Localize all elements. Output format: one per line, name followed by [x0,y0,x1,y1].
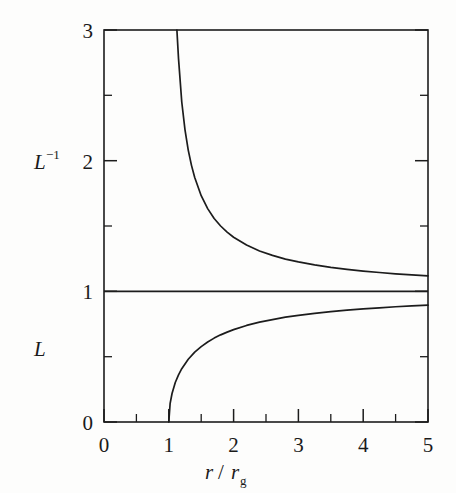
curve-L-main [169,305,428,422]
x-tick-label-3: 3 [293,433,304,457]
x-tick-label-4: 4 [358,433,369,457]
x-axis-title-numerator: r [205,460,214,484]
x-tick-label-2: 2 [228,433,239,457]
figure-container: 3 2 1 0 0 1 2 3 4 5 r / r g L −1 L [0,0,456,493]
x-tick-label-5: 5 [423,433,434,457]
curve-L-inverse [177,30,428,276]
annotation-L-inverse-base: L [33,150,46,174]
x-axis-minor-ticks [136,414,395,422]
x-tick-label-1: 1 [164,433,175,457]
annotation-L-inverse: L −1 [33,147,60,174]
x-tick-label-0: 0 [99,433,110,457]
x-axis-title-denominator: r [231,460,240,484]
y-tick-label-1: 1 [83,280,94,304]
x-axis-title-divider: / [218,460,224,484]
chart-plot: 3 2 1 0 0 1 2 3 4 5 r / r g L −1 L [0,0,456,493]
x-axis-title-denominator-subscript: g [240,473,247,488]
x-axis-title: r / r g [205,460,247,488]
y-axis-minor-ticks [104,95,428,356]
y-tick-label-0: 0 [83,411,94,435]
plot-frame [104,30,428,422]
annotation-L: L [33,337,46,361]
y-axis-major-ticks [104,30,428,422]
y-tick-label-3: 3 [83,19,94,43]
annotation-L-inverse-exponent: −1 [46,147,60,162]
y-tick-label-2: 2 [83,150,94,174]
